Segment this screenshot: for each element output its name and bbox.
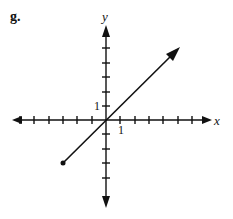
- x-axis-label: x: [214, 114, 220, 127]
- x-axis-left-arrow-icon: [12, 116, 22, 124]
- x-axis-right-arrow-icon: [202, 116, 212, 124]
- y-axis-down-arrow-icon: [102, 196, 110, 208]
- x-unit-label: 1: [118, 124, 124, 136]
- coordinate-plane: [0, 0, 233, 219]
- graph-figure: g. y x 1 1: [0, 0, 233, 219]
- ray-endpoint-dot: [61, 161, 66, 166]
- y-unit-label: 1: [94, 100, 100, 112]
- ray-line: [63, 53, 174, 163]
- problem-label: g.: [10, 10, 21, 24]
- y-axis-up-arrow-icon: [102, 25, 110, 37]
- y-axis-label: y: [102, 10, 108, 23]
